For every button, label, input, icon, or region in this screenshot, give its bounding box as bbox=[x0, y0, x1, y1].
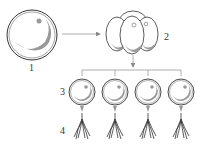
label-4: 4 bbox=[60, 126, 65, 136]
stage2-cluster bbox=[106, 11, 158, 54]
label-2: 2 bbox=[164, 32, 169, 42]
branch-lines bbox=[82, 70, 181, 76]
stage3-cell-3 bbox=[135, 79, 161, 105]
arrows-3-to-4 bbox=[80, 106, 183, 112]
label-1: 1 bbox=[29, 63, 34, 73]
stage4-roots bbox=[74, 113, 189, 139]
stage1-cell bbox=[7, 10, 57, 60]
stage3-cell-1 bbox=[69, 79, 95, 105]
label-3: 3 bbox=[60, 87, 65, 97]
stage3-cell-4 bbox=[168, 79, 194, 105]
diagram-canvas bbox=[0, 0, 203, 149]
stage3-cell-2 bbox=[102, 79, 128, 105]
